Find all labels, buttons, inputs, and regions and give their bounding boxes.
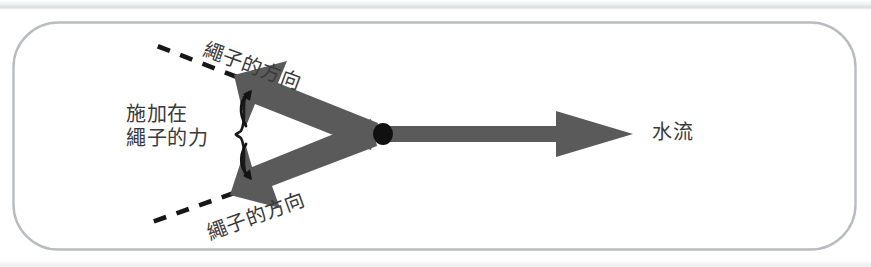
label-applied-force: 施加在 繩子的力 xyxy=(126,102,208,151)
junction-point-dot xyxy=(373,123,393,145)
rope-tension-lower-arrow xyxy=(230,119,377,208)
label-water-flow: 水流 xyxy=(652,120,693,144)
water-flow-arrow xyxy=(386,111,633,157)
label-applied-force-line2: 繩子的力 xyxy=(126,126,208,150)
figure-container: 繩子的方向 施加在 繩子的力 繩子的方向 水流 xyxy=(0,0,871,267)
label-applied-force-line1: 施加在 xyxy=(126,102,208,126)
